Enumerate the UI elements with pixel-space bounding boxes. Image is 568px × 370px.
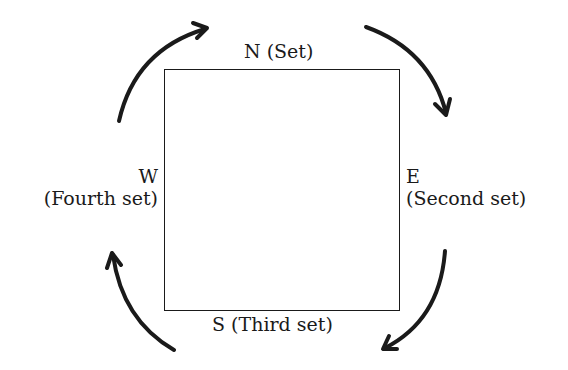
- arrow-south-to-west-icon: [107, 253, 174, 350]
- arrow-east-to-south-icon: [383, 251, 445, 349]
- arrow-north-to-east-icon: [366, 27, 450, 115]
- rotation-arrows: [0, 0, 568, 370]
- arrow-west-to-north-icon: [119, 23, 207, 121]
